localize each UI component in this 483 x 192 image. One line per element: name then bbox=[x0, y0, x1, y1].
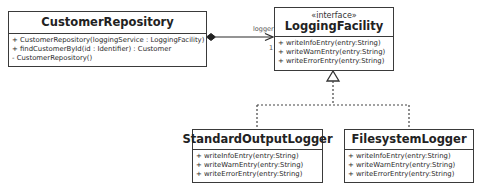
association-multiplicity-label: 1 bbox=[269, 44, 273, 52]
class-header: «interface» LoggingFacility bbox=[275, 8, 393, 37]
operation: + writeInfoEntry(entry:String) bbox=[278, 39, 391, 48]
navigability-arrow-icon bbox=[265, 34, 273, 41]
class-header: CustomerRepository bbox=[9, 12, 206, 34]
class-name: StandardOutputLogger bbox=[182, 133, 332, 146]
operation: + writeWarnEntry(entry:String) bbox=[278, 48, 391, 57]
class-customer-repository[interactable]: CustomerRepository + CustomerRepository(… bbox=[8, 11, 207, 67]
operations-compartment: + writeInfoEntry(entry:String) + writeWa… bbox=[193, 150, 322, 179]
operation: + writeErrorEntry(entry:String) bbox=[196, 170, 320, 179]
class-header: StandardOutputLogger bbox=[193, 130, 322, 150]
operation: + writeInfoEntry(entry:String) bbox=[348, 152, 471, 161]
operation: + writeErrorEntry(entry:String) bbox=[348, 170, 471, 179]
realization-connectors bbox=[257, 71, 409, 129]
operations-compartment: + writeInfoEntry(entry:String) + writeWa… bbox=[345, 150, 473, 179]
operations-compartment: + CustomerRepository(loggingService : Lo… bbox=[9, 34, 206, 63]
operation: - CustomerRepository() bbox=[12, 54, 204, 63]
class-standard-output-logger[interactable]: StandardOutputLogger + writeInfoEntry(en… bbox=[192, 129, 323, 183]
interface-logging-facility[interactable]: «interface» LoggingFacility + writeInfoE… bbox=[274, 7, 394, 71]
operation: + CustomerRepository(loggingService : Lo… bbox=[12, 36, 204, 45]
class-header: FilesystemLogger bbox=[345, 130, 473, 150]
operation: + writeErrorEntry(entry:String) bbox=[278, 57, 391, 66]
uml-class-diagram: logger 1 CustomerRepository + CustomerRe… bbox=[0, 0, 483, 192]
operation: + writeWarnEntry(entry:String) bbox=[196, 161, 320, 170]
association-role-label: logger bbox=[253, 25, 274, 33]
operation: + findCustomerById(id : Identifier) : Cu… bbox=[12, 45, 204, 54]
class-filesystem-logger[interactable]: FilesystemLogger + writeInfoEntry(entry:… bbox=[344, 129, 474, 183]
class-name: LoggingFacility bbox=[285, 20, 384, 33]
operation: + writeWarnEntry(entry:String) bbox=[348, 161, 471, 170]
class-name: FilesystemLogger bbox=[351, 133, 466, 146]
realization-triangle-icon bbox=[327, 71, 339, 81]
composition-association bbox=[207, 34, 274, 41]
composition-diamond-icon bbox=[207, 34, 216, 41]
operation: + writeInfoEntry(entry:String) bbox=[196, 152, 320, 161]
operations-compartment: + writeInfoEntry(entry:String) + writeWa… bbox=[275, 37, 393, 66]
class-name: CustomerRepository bbox=[41, 16, 173, 29]
